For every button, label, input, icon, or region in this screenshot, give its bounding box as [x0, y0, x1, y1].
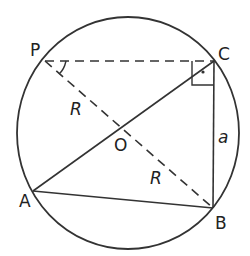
label-radius-upper: R — [70, 99, 82, 119]
label-a: A — [19, 191, 31, 211]
geometry-diagram: P C O A B R R a — [0, 0, 250, 256]
segment-pb — [45, 61, 213, 208]
segment-cb — [213, 61, 214, 208]
label-radius-lower: R — [150, 168, 162, 188]
right-angle-dot-icon — [201, 70, 204, 73]
segment-ac — [33, 61, 214, 191]
label-o: O — [114, 135, 127, 155]
label-b: B — [215, 213, 227, 233]
label-c: C — [218, 44, 230, 64]
segment-ab — [33, 191, 213, 208]
angle-arc-icon — [59, 61, 66, 74]
label-side-a: a — [218, 127, 228, 147]
label-p: P — [30, 40, 40, 60]
